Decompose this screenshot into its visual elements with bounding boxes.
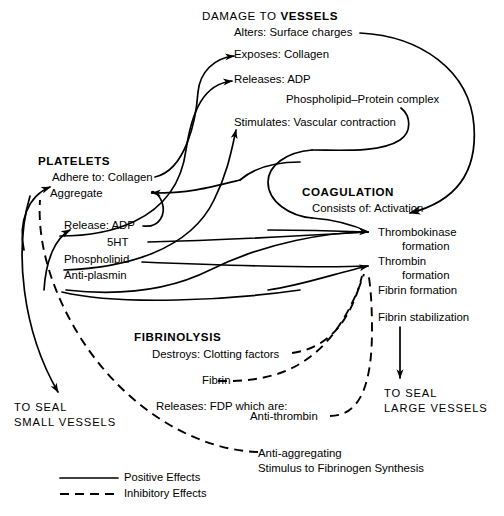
coagulation-heading: COAGULATION	[302, 186, 394, 198]
damage-item-phospholipid-protein: Phospholipid–Protein complex	[286, 94, 439, 105]
arc-to-stimulates-vascular-contraction	[64, 130, 236, 270]
damage-heading-emphasis: VESSELS	[280, 9, 338, 22]
fibrinolysis-item-anti-thrombin: Anti-thrombin	[250, 411, 318, 422]
legend-positive-label: Positive Effects	[124, 472, 200, 483]
damage-item-stimulates: Stimulates: Vascular contraction	[234, 117, 396, 128]
platelets-item-phospholipid: Phospholipid	[64, 254, 129, 265]
coagulation-item-thrombin: Thrombin	[378, 256, 426, 267]
line-5ht-to-coagulation	[148, 232, 368, 242]
fibrinolysis-item-stimulus-fibrinogen: Stimulus to Fibrinogen Synthesis	[258, 463, 424, 474]
damage-item-releases: Releases: ADP	[234, 74, 311, 85]
platelets-item-adhere: Adhere to: Collagen	[52, 172, 153, 183]
coagulation-item-thrombin-formation: formation	[402, 270, 449, 281]
arc-left-return-to-aggregate	[22, 187, 50, 250]
arc-vascular-contraction-hook	[312, 108, 409, 150]
coagulation-item-fibrin-stabilization: Fibrin stabilization	[378, 312, 469, 323]
outcome-large-vessels-line2: LARGE VESSELS	[384, 403, 488, 414]
coagulation-item-thrombokinase-formation: formation	[402, 241, 449, 252]
dash-fibrin-to-fibrin-formation	[218, 274, 364, 381]
arrow-to-thrombin	[268, 266, 368, 290]
dash-antithrombin-to-thrombin	[330, 272, 372, 416]
fibrinolysis-item-destroys: Destroys: Clotting factors	[152, 349, 279, 360]
coagulation-item-consists: Consists of: Activation	[312, 203, 423, 214]
arc-into-aggregate	[152, 180, 240, 193]
damage-heading-prefix: DAMAGE TO	[202, 9, 280, 22]
damage-item-alters: Alters: Surface charges	[234, 27, 352, 38]
dash-antiaggregating-to-platelets	[40, 200, 258, 452]
platelets-heading: PLATELETS	[38, 155, 110, 167]
fibrinolysis-heading: FIBRINOLYSIS	[134, 331, 221, 343]
platelets-item-release-adp: Release: ADP	[64, 220, 135, 231]
fibrinolysis-item-anti-aggregating: Anti-aggregating	[258, 448, 342, 459]
arrow-aggregate-to-small-vessels	[22, 196, 58, 392]
damage-item-exposes: Exposes: Collagen	[234, 49, 329, 60]
outcome-small-vessels-line1: TO SEAL	[14, 402, 67, 413]
haemostasis-diagram: DAMAGE TO VESSELS Alters: Surface charge…	[0, 0, 504, 516]
outcome-large-vessels-line1: TO SEAL	[384, 388, 437, 399]
platelets-item-5ht: 5HT	[107, 237, 129, 248]
legend-inhibitory-label: Inhibitory Effects	[124, 488, 207, 499]
arc-coagulation-lobe	[268, 150, 312, 218]
damage-heading: DAMAGE TO VESSELS	[202, 10, 338, 22]
arrow-to-thrombokinase	[268, 230, 368, 232]
platelets-item-anti-plasmin: Anti-plasmin	[64, 270, 127, 281]
coagulation-item-fibrin-formation: Fibrin formation	[378, 285, 457, 296]
line-phospholipid-to-thrombin	[142, 262, 368, 267]
platelets-item-aggregate: Aggregate	[50, 188, 103, 199]
coagulation-item-thrombokinase: Thrombokinase	[378, 227, 457, 238]
fibrinolysis-item-fibrin: Fibrin	[202, 375, 230, 386]
outcome-small-vessels-line2: SMALL VESSELS	[14, 417, 116, 428]
